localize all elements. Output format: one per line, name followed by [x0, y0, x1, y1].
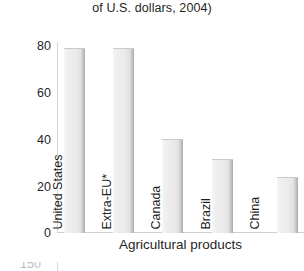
y-tick-label-40: 40: [0, 134, 51, 146]
category-label-united-states: United States: [52, 154, 65, 229]
category-label-extra-eu: Extra-EU*: [101, 173, 114, 229]
category-label-brazil: Brazil: [200, 198, 213, 229]
bar-united-states[interactable]: [64, 48, 85, 233]
y-tick-label-60: 60: [0, 87, 51, 99]
category-label-canada: Canada: [150, 185, 163, 229]
category-label-china: China: [249, 196, 262, 229]
bar-brazil[interactable]: [212, 159, 233, 233]
y-axis-tick-labels: 80 60 40 20 0: [0, 0, 52, 271]
clipped-footer-region: 150: [0, 262, 304, 271]
clipped-footer-text: 150: [20, 262, 41, 271]
clipped-footer-axis-line: [57, 262, 58, 271]
bar-extra-eu[interactable]: [113, 48, 134, 233]
plot-area: United States Extra-EU* Canada Brazil Ch…: [57, 30, 304, 233]
bar-chart-figure: of U.S. dollars, 2004) 80 60 40 20 0 Uni…: [0, 0, 304, 271]
y-tick-label-0: 0: [0, 227, 51, 239]
bar-canada[interactable]: [162, 139, 183, 233]
x-axis-title: Agricultural products: [57, 236, 304, 253]
y-tick-label-20: 20: [0, 181, 51, 193]
y-tick-label-80: 80: [0, 40, 51, 52]
bar-china[interactable]: [277, 177, 298, 233]
